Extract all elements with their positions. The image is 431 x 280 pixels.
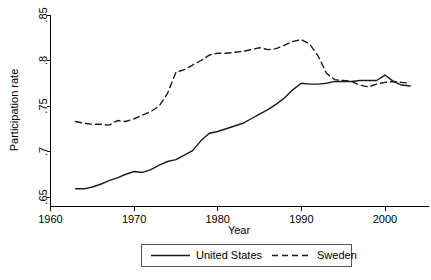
y-axis-title: Participation rate — [8, 69, 20, 152]
x-tick-label: 1970 — [122, 213, 146, 225]
x-tick-label: 1990 — [289, 213, 313, 225]
series-line-united-states — [76, 75, 411, 189]
x-tick-label: 1960 — [38, 213, 62, 225]
x-axis-tick-labels: 19601970198019902000 — [38, 213, 397, 225]
y-tick-label: .8 — [37, 56, 49, 65]
x-axis-title: Year — [228, 224, 251, 236]
participation-rate-line-chart: .65.7.75.8.85 19601970198019902000 Parti… — [0, 0, 431, 280]
x-tick-label: 1980 — [206, 213, 230, 225]
data-series-group — [76, 40, 411, 189]
y-axis-tick-labels: .65.7.75.8.85 — [37, 7, 49, 204]
chart-figure: .65.7.75.8.85 19601970198019902000 Parti… — [0, 0, 431, 280]
series-line-sweden — [76, 40, 411, 126]
y-tick-label: .75 — [37, 98, 49, 113]
y-tick-label: .85 — [37, 7, 49, 22]
y-tick-label: .65 — [37, 189, 49, 204]
legend-label-united-states: United States — [196, 249, 263, 261]
x-tick-label: 2000 — [373, 213, 397, 225]
x-axis-ticks — [51, 207, 386, 211]
legend-label-sweden: Sweden — [317, 249, 357, 261]
y-tick-label: .7 — [37, 147, 49, 156]
axes — [51, 15, 429, 207]
chart-legend: United States Sweden — [142, 245, 357, 267]
